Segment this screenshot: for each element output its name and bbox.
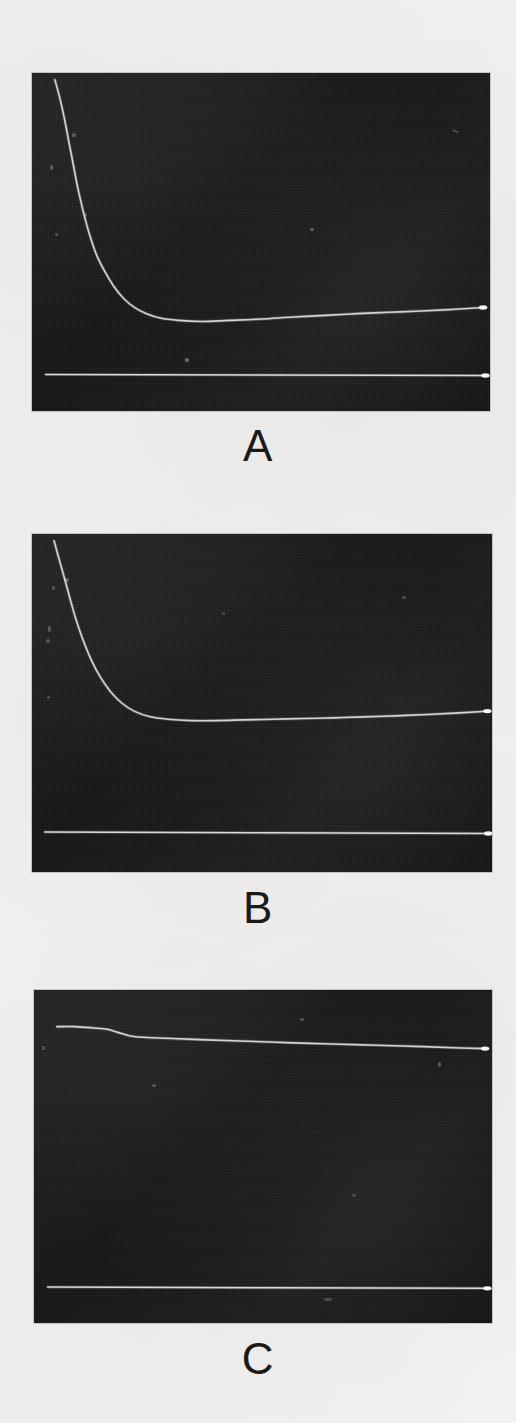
panel-c — [34, 990, 492, 1323]
panel-a — [32, 73, 490, 411]
signal-trace-terminal-dot — [483, 709, 491, 713]
baseline-trace — [46, 375, 486, 376]
signal-trace-glow — [55, 80, 483, 322]
panel-b — [32, 534, 492, 872]
signal-trace-glow — [54, 541, 487, 721]
signal-trace-terminal-dot — [479, 305, 487, 309]
panel-label-a: A — [0, 424, 516, 468]
panel-c-traces — [34, 990, 492, 1323]
signal-trace — [55, 80, 483, 322]
baseline-trace-terminal-dot — [483, 1286, 491, 1290]
panel-label-b: B — [0, 886, 516, 930]
figure-root: A B C — [0, 0, 516, 1423]
signal-trace-glow — [57, 1027, 485, 1049]
signal-trace — [54, 541, 487, 721]
baseline-trace-terminal-dot — [481, 373, 489, 377]
signal-trace-terminal-dot — [481, 1046, 489, 1050]
panel-a-traces — [32, 73, 490, 411]
panel-label-c: C — [0, 1337, 516, 1381]
panel-b-traces — [32, 534, 492, 872]
